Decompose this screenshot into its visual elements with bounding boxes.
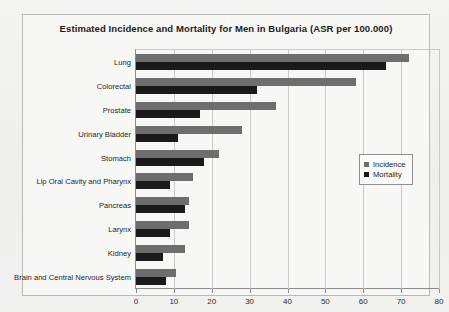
x-tick-label: 70 xyxy=(397,297,406,306)
bar-incidence xyxy=(136,245,185,253)
category-label: Lip Oral Cavity and Pharynx xyxy=(36,177,131,186)
bar-row: Lung xyxy=(136,50,439,74)
bar-mortality xyxy=(136,205,185,213)
category-label: Colorectal xyxy=(97,81,131,90)
x-tick-label: 40 xyxy=(283,297,292,306)
tick-mark xyxy=(174,289,175,293)
category-label: Lung xyxy=(114,57,131,66)
bar-mortality xyxy=(136,253,163,261)
tick-mark xyxy=(401,289,402,293)
x-tick-label: 60 xyxy=(359,297,368,306)
chart-legend: IncidenceMortality xyxy=(359,154,413,185)
bar-row: Kidney xyxy=(136,241,439,265)
bar-incidence xyxy=(136,78,356,86)
bar-incidence xyxy=(136,269,176,277)
category-label: Larynx xyxy=(108,225,131,234)
bar-mortality xyxy=(136,110,200,118)
bar-mortality xyxy=(136,62,386,70)
category-label: Brain and Central Nervous System xyxy=(14,273,131,282)
bar-mortality xyxy=(136,86,257,94)
x-tick-label: 80 xyxy=(435,297,444,306)
bar-row: Urinary Bladder xyxy=(136,122,439,146)
bar-incidence xyxy=(136,54,409,62)
category-label: Stomach xyxy=(101,153,131,162)
bar-incidence xyxy=(136,150,219,158)
bar-mortality xyxy=(136,134,178,142)
x-tick-label: 20 xyxy=(207,297,216,306)
tick-mark xyxy=(288,289,289,293)
bar-mortality xyxy=(136,277,166,285)
bar-row: Brain and Central Nervous System xyxy=(136,265,439,289)
bar-incidence xyxy=(136,173,193,181)
bar-row: Colorectal xyxy=(136,74,439,98)
category-label: Pancreas xyxy=(99,201,131,210)
bar-incidence xyxy=(136,221,189,229)
legend-item-incidence: Incidence xyxy=(364,160,406,169)
tick-mark xyxy=(136,289,137,293)
chart-figure: Estimated Incidence and Mortality for Me… xyxy=(22,14,430,296)
bar-row: Larynx xyxy=(136,217,439,241)
tick-mark xyxy=(363,289,364,293)
legend-item-mortality: Mortality xyxy=(364,170,406,179)
x-tick-label: 10 xyxy=(169,297,178,306)
bar-incidence xyxy=(136,197,189,205)
category-label: Urinary Bladder xyxy=(78,129,131,138)
bar-mortality xyxy=(136,229,170,237)
legend-swatch-mortality xyxy=(364,172,369,177)
bar-row: Pancreas xyxy=(136,193,439,217)
x-tick-label: 0 xyxy=(134,297,138,306)
bar-mortality xyxy=(136,158,204,166)
bar-row: Prostate xyxy=(136,98,439,122)
tick-mark xyxy=(325,289,326,293)
x-tick-label: 30 xyxy=(245,297,254,306)
chart-title: Estimated Incidence and Mortality for Me… xyxy=(23,23,429,34)
bar-mortality xyxy=(136,181,170,189)
legend-swatch-incidence xyxy=(364,162,369,167)
bar-incidence xyxy=(136,126,242,134)
tick-mark xyxy=(439,289,440,293)
category-label: Prostate xyxy=(103,105,131,114)
tick-mark xyxy=(250,289,251,293)
legend-label: Mortality xyxy=(373,170,402,179)
bar-incidence xyxy=(136,102,276,110)
category-label: Kidney xyxy=(108,249,131,258)
gridline xyxy=(439,50,440,289)
scanned-page-background: Estimated Incidence and Mortality for Me… xyxy=(0,0,449,312)
tick-mark xyxy=(212,289,213,293)
legend-label: Incidence xyxy=(373,160,406,169)
x-tick-label: 50 xyxy=(321,297,330,306)
